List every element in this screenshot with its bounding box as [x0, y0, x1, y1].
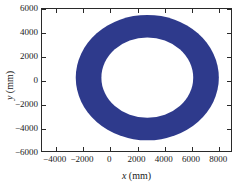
- y-tick-mark-right: [227, 129, 231, 130]
- y-tick-mark: [42, 129, 46, 130]
- y-tick-mark: [42, 57, 46, 58]
- annulus-plot-svg: [42, 9, 231, 151]
- x-tick-label: 6000: [182, 154, 200, 165]
- y-tick-label: −4000: [15, 123, 38, 134]
- y-tick-label: 0: [34, 75, 39, 86]
- x-tick-mark: [56, 147, 57, 151]
- x-tick-mark: [138, 147, 139, 151]
- x-tick-label: 2000: [128, 154, 146, 165]
- figure-container: x (mm) y (mm) −4000−20000200040006000800…: [0, 0, 237, 192]
- x-tick-label: 0: [107, 154, 112, 165]
- x-tick-label: 4000: [155, 154, 173, 165]
- y-tick-label: 4000: [20, 27, 38, 38]
- y-tick-mark-right: [227, 105, 231, 106]
- x-tick-mark: [83, 147, 84, 151]
- annulus-ring-series: [42, 9, 231, 151]
- plot-axes-box: [41, 8, 232, 152]
- y-tick-mark-right: [227, 33, 231, 34]
- y-tick-mark-right: [227, 57, 231, 58]
- x-tick-mark: [110, 147, 111, 151]
- x-tick-mark-top: [219, 9, 220, 13]
- y-tick-mark: [42, 33, 46, 34]
- y-axis-label: y (mm): [4, 51, 15, 121]
- y-tick-label: 6000: [20, 3, 38, 14]
- x-tick-mark: [219, 147, 220, 151]
- x-tick-mark-top: [83, 9, 84, 13]
- y-tick-label: −2000: [15, 99, 38, 110]
- x-tick-mark-top: [165, 9, 166, 13]
- x-tick-mark-top: [110, 9, 111, 13]
- y-tick-mark: [42, 81, 46, 82]
- x-tick-label: −4000: [43, 154, 66, 165]
- y-tick-mark: [42, 9, 46, 10]
- x-tick-mark-top: [138, 9, 139, 13]
- y-tick-label: 2000: [20, 51, 38, 62]
- x-tick-mark-top: [192, 9, 193, 13]
- x-tick-mark-top: [56, 9, 57, 13]
- x-tick-mark: [192, 147, 193, 151]
- x-tick-mark: [165, 147, 166, 151]
- x-tick-label: 8000: [209, 154, 227, 165]
- x-tick-label: −2000: [70, 154, 93, 165]
- y-tick-label: −6000: [15, 147, 38, 158]
- y-tick-mark-right: [227, 9, 231, 10]
- y-tick-mark: [42, 105, 46, 106]
- y-axis-label-var: y: [4, 96, 15, 100]
- x-axis-label-unit: (mm): [129, 170, 151, 181]
- y-tick-mark-right: [227, 81, 231, 82]
- x-axis-label: x (mm): [41, 170, 232, 181]
- y-axis-label-unit: (mm): [4, 71, 15, 93]
